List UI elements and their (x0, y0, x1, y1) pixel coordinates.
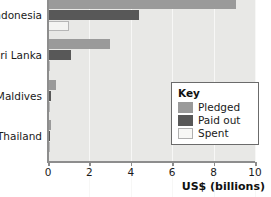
legend-item: Spent (178, 127, 252, 139)
x-axis-tick-label: 8 (210, 166, 217, 178)
legend-item: Paid out (178, 114, 252, 126)
legend-label: Pledged (198, 101, 240, 113)
x-axis-line (47, 161, 255, 163)
x-axis-tick-label: 4 (127, 166, 134, 178)
category-label: Indonesia (0, 9, 42, 21)
legend-item: Pledged (178, 101, 252, 113)
bar (48, 21, 69, 31)
bar (48, 0, 236, 9)
legend: Key PledgedPaid outSpent (171, 82, 259, 145)
category-label: Maldives (0, 90, 42, 102)
bar (48, 80, 56, 90)
legend-swatch-spent (178, 128, 193, 139)
legend-title: Key (178, 87, 252, 99)
x-axis-tick-label: 0 (45, 166, 52, 178)
y-axis-line (47, 0, 49, 162)
category-label: Sri Lanka (0, 49, 42, 61)
legend-items: PledgedPaid outSpent (178, 101, 252, 139)
x-axis-title: US$ (billions) (182, 180, 265, 193)
x-axis-tick-label: 10 (248, 166, 261, 178)
legend-label: Spent (198, 127, 229, 139)
bar (48, 39, 110, 49)
legend-swatch-pledged (178, 102, 193, 113)
bar-chart: 0246810 IndonesiaSri LankaMaldivesThaila… (0, 0, 271, 197)
legend-swatch-paid (178, 115, 193, 126)
bar (48, 50, 71, 60)
bar (48, 10, 139, 20)
x-axis-tick-label: 6 (169, 166, 176, 178)
category-label: Thailand (0, 130, 42, 142)
x-axis-tick-label: 2 (86, 166, 93, 178)
legend-label: Paid out (198, 114, 240, 126)
